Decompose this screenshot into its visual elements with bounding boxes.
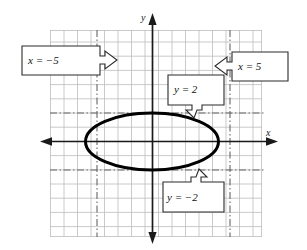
callout-y-pos-2-label: y = 2 [173, 83, 198, 95]
callout-y-pos-2-box [168, 75, 224, 118]
x-axis-label: x [265, 127, 271, 138]
ellipse-figure: y x x = −5 x = 5 y = 2 y = −2 [0, 0, 307, 250]
y-axis-arrow-up [148, 13, 156, 25]
y-axis-label: y [140, 12, 146, 23]
figure-canvas: y x x = −5 x = 5 y = 2 y = −2 [0, 0, 307, 250]
x-axis-arrow-right [266, 137, 278, 145]
callout-x-neg-5-label: x = −5 [27, 54, 59, 66]
callout-y-neg-2-label: y = −2 [166, 191, 198, 203]
callout-y-pos-2[interactable]: y = 2 [168, 75, 224, 118]
callout-x-pos-5-label: x = 5 [237, 60, 262, 72]
y-axis-arrow-down [148, 232, 156, 244]
x-axis-arrow-left [40, 137, 52, 145]
